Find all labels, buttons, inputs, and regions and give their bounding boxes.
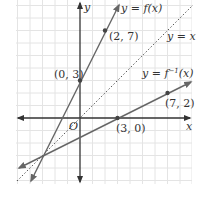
identity-label: y = x: [166, 30, 196, 43]
point-0-3-label: (0, 3): [54, 68, 84, 81]
y-axis-label: y: [83, 1, 91, 14]
point-2-7-label: (2, 7): [109, 30, 139, 43]
x-axis-label: x: [186, 120, 193, 133]
point-3-0: [115, 116, 119, 120]
graph: y x O y = f(x) y = x y = f−1(x) (2, 7) (…: [0, 0, 204, 200]
point-7-2-label: (7, 2): [165, 97, 195, 110]
f-inverse-label: y = f−1(x): [141, 67, 194, 80]
point-3-0-label: (3, 0): [116, 122, 146, 135]
point-2-7: [103, 28, 107, 32]
origin-label: O: [69, 120, 78, 133]
f-label: y = f(x): [120, 2, 162, 15]
point-7-2: [165, 91, 169, 95]
